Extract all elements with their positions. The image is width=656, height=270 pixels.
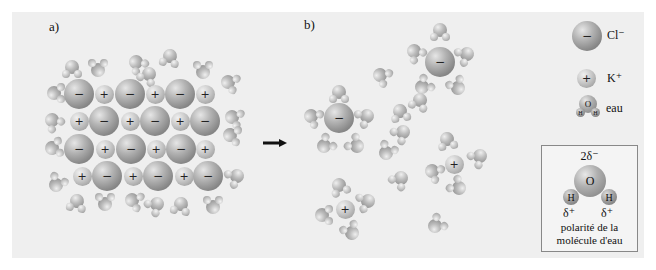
- chloride-ion: −: [140, 106, 170, 136]
- potassium-ion: +: [146, 85, 165, 104]
- chloride-ion: −: [64, 79, 94, 109]
- water-molecule: [296, 101, 326, 131]
- water-molecule: [43, 82, 65, 104]
- panel-a-label: a): [49, 19, 59, 35]
- potassium-ion: +: [445, 155, 464, 174]
- water-molecule: [61, 56, 83, 78]
- potassium-ion: +: [70, 112, 89, 131]
- chloride-ion: −: [193, 161, 223, 191]
- legend-potassium-icon: +: [577, 69, 596, 88]
- water-molecule: [118, 186, 146, 214]
- water-molecule: [214, 68, 242, 96]
- legend-water-icon: O H H: [576, 95, 600, 119]
- hydrogen-atom-right: H: [601, 189, 617, 205]
- potassium-ion: +: [336, 200, 355, 219]
- potassium-ion: +: [73, 167, 92, 186]
- potassium-ion: +: [95, 85, 114, 104]
- water-molecule: [328, 81, 350, 103]
- chloride-ion: −: [115, 79, 145, 109]
- delta-plus-right: δ⁺: [601, 206, 613, 221]
- water-molecule: [444, 173, 475, 204]
- chloride-ion: −: [425, 47, 455, 77]
- water-molecule: [465, 141, 496, 172]
- right-arrow-icon: [263, 139, 287, 147]
- chloride-ion: −: [64, 134, 94, 164]
- water-molecule: [434, 126, 459, 151]
- water-molecule: [452, 39, 482, 69]
- water-molecule: [157, 43, 182, 68]
- water-molecule: [342, 131, 373, 162]
- legend-water-label: eau: [606, 101, 623, 116]
- potassium-ion: +: [121, 112, 140, 131]
- water-molecule: [354, 187, 382, 215]
- water-molecule: [39, 135, 64, 160]
- water-molecule: [309, 131, 340, 162]
- potassium-ion: +: [124, 167, 143, 186]
- delta-plus-left: δ⁺: [563, 206, 575, 221]
- water-molecule: [365, 60, 395, 90]
- water-molecule: [417, 156, 447, 186]
- chloride-ion: −: [190, 106, 220, 136]
- water-molecule: [202, 196, 224, 218]
- water-molecule: [192, 61, 214, 83]
- chloride-ion: −: [165, 79, 195, 109]
- chloride-ion: −: [166, 134, 196, 164]
- polarity-caption-line2: molécule d'eau: [542, 234, 637, 246]
- water-molecule: [352, 101, 382, 131]
- potassium-ion: +: [147, 140, 166, 159]
- water-molecule: [443, 73, 473, 103]
- delta-minus-label: 2δ⁻: [542, 149, 637, 164]
- potassium-ion: +: [171, 112, 190, 131]
- polarity-caption-line1: polarité de la: [542, 221, 637, 233]
- water-molecule: [37, 105, 68, 136]
- chloride-ion: −: [92, 161, 122, 191]
- hydrogen-atom-left: H: [563, 189, 579, 205]
- water-molecule: [87, 59, 109, 81]
- chloride-ion: −: [89, 106, 119, 136]
- legend-chloride-icon: −: [572, 21, 602, 51]
- potassium-ion: +: [175, 167, 194, 186]
- water-molecule: [222, 161, 252, 191]
- panel-b-label: b): [304, 17, 315, 33]
- potassium-ion: +: [196, 85, 215, 104]
- chloride-ion: −: [324, 103, 354, 133]
- water-molecule: [311, 204, 333, 226]
- legend-chloride-label: Cl⁻: [607, 28, 625, 43]
- chloride-ion: −: [116, 134, 146, 164]
- water-molecule: [217, 122, 242, 147]
- water-molecule: [94, 193, 116, 215]
- water-molecule: [420, 211, 451, 242]
- water-molecule: [64, 188, 89, 213]
- water-molecule: [168, 191, 193, 216]
- chloride-ion: −: [143, 161, 173, 191]
- potassium-ion: +: [196, 140, 215, 159]
- legend-potassium-label: K⁺: [607, 71, 622, 86]
- water-molecule: [337, 218, 367, 248]
- water-polarity-box: 2δ⁻ O H H δ⁺ δ⁺ polarité de la molécule …: [541, 145, 638, 252]
- potassium-ion: +: [96, 140, 115, 159]
- water-molecule: [429, 19, 451, 41]
- water-molecule: [325, 171, 353, 199]
- dissolution-diagram: a) b) −+−+−++−+−+−−+−+−++−+−+− −−++ − Cl…: [0, 0, 656, 270]
